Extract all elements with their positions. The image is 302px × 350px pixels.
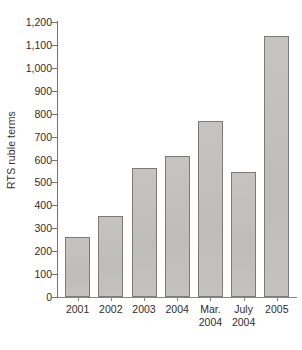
y-axis-tick-label: 400 bbox=[6, 199, 52, 211]
y-axis-tick-label: 1,000 bbox=[6, 62, 52, 74]
y-axis-tick-label: 100 bbox=[6, 268, 52, 280]
x-axis-category-label: 2003 bbox=[126, 303, 162, 316]
y-axis-tick-label: 900 bbox=[6, 85, 52, 97]
x-axis-category-label: 2005 bbox=[259, 303, 295, 316]
bar-chart-figure: RTS ruble terms 010020030040050060070080… bbox=[0, 0, 302, 350]
bar bbox=[65, 237, 90, 297]
x-axis-tick bbox=[177, 297, 178, 301]
y-axis-tick-label: 1,200 bbox=[6, 16, 52, 28]
y-axis-tick-label: 300 bbox=[6, 222, 52, 234]
bar bbox=[231, 172, 256, 297]
x-axis-tick bbox=[144, 297, 145, 301]
bar bbox=[132, 168, 157, 297]
y-axis-tick-label: 600 bbox=[6, 154, 52, 166]
x-axis-tick bbox=[78, 297, 79, 301]
y-axis-tick-label: 1,100 bbox=[6, 39, 52, 51]
x-axis-tick bbox=[210, 297, 211, 301]
x-axis-category-label: July 2004 bbox=[226, 303, 262, 329]
y-axis-tick-label: 200 bbox=[6, 245, 52, 257]
bar bbox=[198, 121, 223, 297]
bar bbox=[264, 36, 289, 297]
bar bbox=[98, 216, 123, 297]
plot-area bbox=[58, 22, 294, 297]
x-axis-category-label: Mar. 2004 bbox=[192, 303, 228, 329]
x-axis-category-label: 2002 bbox=[93, 303, 129, 316]
y-axis-tick-label: 800 bbox=[6, 108, 52, 120]
x-axis-category-label: 2004 bbox=[159, 303, 195, 316]
y-axis-tick-labels: 01002003004005006007008009001,0001,1001,… bbox=[0, 22, 52, 297]
y-axis-tick-label: 0 bbox=[6, 291, 52, 303]
bar bbox=[165, 156, 190, 297]
x-axis-category-label: 2001 bbox=[60, 303, 96, 316]
x-axis-tick bbox=[111, 297, 112, 301]
x-axis-tick bbox=[277, 297, 278, 301]
x-axis-tick bbox=[244, 297, 245, 301]
y-axis-tick-label: 700 bbox=[6, 131, 52, 143]
y-axis-tick-label: 500 bbox=[6, 176, 52, 188]
